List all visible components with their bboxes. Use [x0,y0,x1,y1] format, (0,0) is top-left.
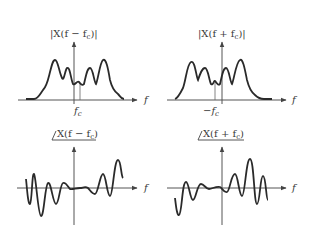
x-axis-label: f [143,94,150,105]
panel-title: |X(f − fc)| [50,28,98,41]
panel-magnitude-shift-negative: |X(f + fc)| f −fc [167,28,298,118]
panel-magnitude-shift-positive: |X(f − fc)| f fc [18,28,150,118]
frequency-shift-diagram: |X(f − fc)| f fc |X(f + fc)| f −fc X(f −… [0,0,313,235]
panel-title: |X(f + fc)| [198,28,246,41]
panel-phase-shift-negative: X(f + fc) f [167,128,298,225]
panel-title: X(f + fc) [203,128,244,141]
neg-fc-marker-label: −fc [203,105,219,118]
panel-phase-shift-positive: X(f − fc) f [17,128,150,225]
fc-marker-label: fc [73,105,82,118]
x-axis-label: f [291,182,298,193]
x-axis-label: f [143,182,150,193]
x-axis-label: f [291,94,298,105]
panel-title: X(f − fc) [57,128,98,141]
magnitude-curve [26,60,124,99]
magnitude-curve [175,60,272,99]
